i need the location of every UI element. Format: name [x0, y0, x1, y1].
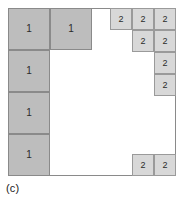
tile-1: 1 — [8, 50, 50, 92]
tile-2: 2 — [132, 154, 154, 176]
tile-2: 2 — [154, 8, 176, 30]
tile-2: 2 — [132, 30, 154, 52]
tile-label: 1 — [68, 24, 74, 34]
tile-label: 2 — [140, 15, 145, 24]
tile-1: 1 — [50, 8, 92, 50]
tile-label: 1 — [26, 66, 32, 76]
tile-label: 2 — [162, 81, 167, 90]
tile-label: 2 — [162, 161, 167, 170]
tile-label: 2 — [162, 37, 167, 46]
tile-2: 2 — [154, 52, 176, 74]
tile-label: 1 — [26, 108, 32, 118]
tile-label: 1 — [26, 150, 32, 160]
tile-label: 2 — [162, 15, 167, 24]
tile-1: 1 — [8, 8, 50, 50]
tile-label: 1 — [26, 24, 32, 34]
tile-1: 1 — [8, 134, 50, 176]
tile-label: 2 — [140, 161, 145, 170]
tile-2: 2 — [154, 74, 176, 96]
tile-2: 2 — [110, 8, 132, 30]
tile-2: 2 — [132, 8, 154, 30]
tile-label: 2 — [118, 15, 123, 24]
packing-figure: 11111222222222 (c) — [0, 0, 184, 204]
tile-label: 2 — [162, 59, 167, 68]
figure-caption: (c) — [6, 182, 19, 194]
tile-2: 2 — [154, 154, 176, 176]
tile-label: 2 — [140, 37, 145, 46]
tile-1: 1 — [8, 92, 50, 134]
tile-2: 2 — [154, 30, 176, 52]
